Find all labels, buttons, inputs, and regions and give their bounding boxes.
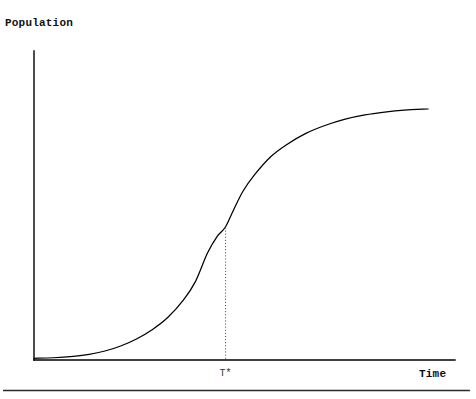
plot-canvas: [0, 0, 476, 399]
x-axis-tick-label-tstar: T*: [201, 369, 251, 379]
population-curve: [34, 109, 428, 358]
figure-container: Population T* Time: [0, 0, 476, 399]
x-axis-title: Time: [419, 369, 446, 380]
